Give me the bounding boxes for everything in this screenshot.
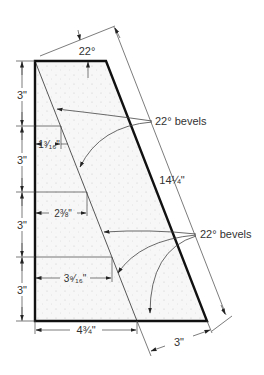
height-label-2: 3" — [17, 154, 27, 166]
slant-length-label: 14¼" — [159, 174, 184, 186]
bottom-slant-label: 3" — [174, 336, 184, 348]
bottom-width-label: 4¾" — [76, 324, 95, 336]
bevel-diagram: 3" 3" 3" 3" 1³⁄₁₆" 2⅜" 3⁹⁄₁₆" 4¾" 22° — [0, 0, 264, 375]
height-label-1: 3" — [17, 89, 27, 101]
top-angle-label: 22° — [79, 45, 96, 57]
lower-bevels-label: 22° bevels — [200, 228, 252, 240]
offset-label-2: 2⅜" — [54, 208, 72, 219]
offset-label-3: 3⁹⁄₁₆" — [64, 273, 87, 284]
upper-bevels-label: 22° bevels — [155, 115, 207, 127]
offset-label-1: 1³⁄₁₆" — [38, 139, 60, 150]
height-label-4: 3" — [17, 284, 27, 296]
height-label-3: 3" — [17, 219, 27, 231]
